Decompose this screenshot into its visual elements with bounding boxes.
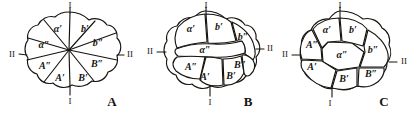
figure-c-segment-B-prime: B′ xyxy=(338,73,349,84)
figure-a-axis-label-right: II xyxy=(127,49,133,59)
figure-a-axis-label-left: II xyxy=(9,49,15,59)
figure-b-axis-label-right: II xyxy=(267,43,273,53)
figure-b-segment-A-prime: A′ xyxy=(199,71,210,82)
figure-plate-svg: I I II II α′ b′ α″ b″ A″ B″ A′ B′ A I I … xyxy=(0,0,415,128)
figure-b-axis-label-top: I xyxy=(205,0,208,10)
figure-c-segment-A-dprime: A″ xyxy=(305,39,318,50)
figure-b-segment-B-prime: B′ xyxy=(225,70,236,81)
figure-a-segment-A-prime: A′ xyxy=(54,72,65,83)
figure-c-axis-label-top: I xyxy=(339,0,342,10)
figure-c-letter: C xyxy=(379,94,388,109)
figure-c-axis-label-bottom: I xyxy=(329,98,332,108)
figure-b-segment-a-prime: α′ xyxy=(187,23,196,34)
figure-a-segment-B-dprime: B″ xyxy=(90,58,103,69)
figure-a-segment-B-prime: B′ xyxy=(77,72,88,83)
figure-c-segment-a-prime: α′ xyxy=(323,24,332,35)
figure-b-letter: B xyxy=(244,94,253,109)
figure-plate: I I II II α′ b′ α″ b″ A″ B″ A′ B′ A I I … xyxy=(0,0,415,128)
figure-a-segment-A-dprime: A″ xyxy=(38,60,51,71)
figure-a-segment-a-dprime: α″ xyxy=(38,39,49,50)
figure-b-segment-A-dprime: A″ xyxy=(184,61,197,72)
figure-b-segment-a-dprime: α″ xyxy=(199,44,210,55)
figure-c-axis-label-right: II xyxy=(401,56,407,66)
figure-b-axis-label-left: II xyxy=(147,46,153,56)
figure-b: I I II II α′ b′ b″ α″ A″ B″ A′ B′ B xyxy=(147,0,273,109)
figure-a-segment-b-prime: b′ xyxy=(81,23,89,34)
figure-c-segment-a-dprime: α″ xyxy=(336,49,347,60)
figure-c-segment-A-prime: A′ xyxy=(306,61,317,72)
figure-a-axis-label-top: I xyxy=(69,0,72,10)
figure-c-axis-label-left: II xyxy=(282,49,288,59)
figure-b-segment-b-prime: b′ xyxy=(215,21,223,32)
figure-c: I I II II α′ b′ A″ α″ b″ A′ B′ B″ C xyxy=(282,0,407,109)
figure-a: I I II II α′ b′ α″ b″ A″ B″ A′ B′ A xyxy=(9,0,133,109)
figure-b-axis-label-bottom: I xyxy=(209,97,212,107)
figure-a-letter: A xyxy=(107,94,117,109)
figure-c-segment-b-dprime: b″ xyxy=(368,44,379,55)
figure-c-segment-B-dprime: B″ xyxy=(364,68,377,79)
figure-a-segment-a-prime: α′ xyxy=(54,23,63,34)
figure-c-segment-b-prime: b′ xyxy=(349,24,357,35)
figure-a-segment-b-dprime: b″ xyxy=(93,37,104,48)
figure-b-segment-b-dprime: b″ xyxy=(238,31,249,42)
figure-a-axis-label-bottom: I xyxy=(69,96,72,106)
figure-b-segment-B-dprime: B″ xyxy=(233,59,246,70)
